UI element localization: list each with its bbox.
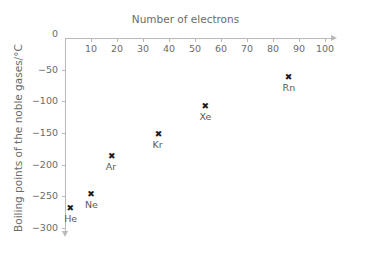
data-point-kr: ✖	[155, 130, 163, 139]
y-axis-title: Boiling points of the noble gases/°C	[12, 44, 24, 232]
data-point-he: ✖	[66, 204, 74, 213]
x-tick-label-100: 100	[310, 43, 340, 54]
x-tick-50	[195, 38, 196, 42]
data-point-label-he: He	[64, 213, 77, 224]
data-point-label-ne: Ne	[85, 199, 98, 210]
x-tick-70	[247, 38, 248, 42]
x-tick-10	[91, 38, 92, 42]
y-tick--50	[62, 70, 66, 71]
x-tick-40	[169, 38, 170, 42]
x-axis-title: Number of electrons	[0, 13, 371, 25]
y-tick-label--200: −200	[24, 159, 58, 170]
y-tick--200	[62, 165, 66, 166]
data-point-ne: ✖	[87, 189, 95, 198]
cropped-header-text	[55, 0, 355, 3]
data-point-rn: ✖	[285, 73, 293, 82]
x-tick-90	[299, 38, 300, 42]
data-point-ar: ✖	[108, 151, 116, 160]
scatter-chart: Number of electrons Boiling points of th…	[0, 0, 371, 257]
x-axis-arrow-icon	[331, 35, 337, 41]
y-tick-label--150: −150	[24, 127, 58, 138]
data-point-label-rn: Rn	[283, 82, 296, 93]
x-tick-60	[221, 38, 222, 42]
y-tick--300	[62, 228, 66, 229]
data-point-xe: ✖	[202, 102, 210, 111]
y-axis-arrow-icon	[62, 231, 68, 237]
data-point-label-ar: Ar	[106, 161, 116, 172]
x-tick-30	[143, 38, 144, 42]
x-tick-80	[273, 38, 274, 42]
y-tick--150	[62, 133, 66, 134]
origin-label: 0	[52, 28, 58, 39]
y-tick-label--100: −100	[24, 95, 58, 106]
y-tick--250	[62, 196, 66, 197]
y-tick-label--300: −300	[24, 222, 58, 233]
y-tick-label--250: −250	[24, 190, 58, 201]
y-tick--100	[62, 101, 66, 102]
x-axis-line	[65, 38, 333, 39]
x-tick-100	[325, 38, 326, 42]
data-point-label-xe: Xe	[199, 111, 211, 122]
x-tick-20	[117, 38, 118, 42]
data-point-label-kr: Kr	[153, 139, 163, 150]
y-tick-label--50: −50	[24, 64, 58, 75]
